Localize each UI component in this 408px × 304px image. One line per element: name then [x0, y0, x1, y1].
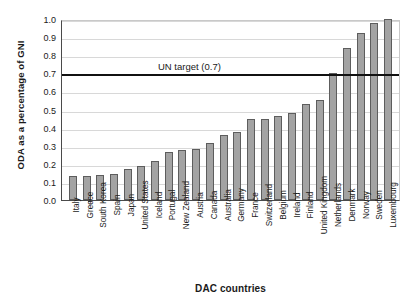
y-axis-tick-labels: 0.00.10.20.30.40.50.60.70.80.91.0: [30, 14, 56, 206]
bar-slot: [244, 21, 258, 200]
bar: [302, 104, 310, 200]
x-tick-slot: Luxembourg: [382, 203, 396, 279]
y-axis-tick-label: 0.7: [30, 69, 56, 79]
x-axis-tick-label: Luxembourg: [389, 182, 398, 228]
y-axis-tick-label: 0.8: [30, 51, 56, 61]
bar-slot: [326, 21, 340, 200]
bar-slot: [354, 21, 368, 200]
y-axis-tick-label: 0.9: [30, 33, 56, 43]
bar: [370, 23, 378, 200]
bar-slot: [285, 21, 299, 200]
y-axis-tick-label: 0.5: [30, 106, 56, 116]
bar-slot: [299, 21, 313, 200]
x-tick-slot: Netherlands: [327, 203, 341, 279]
y-axis-tick-label: 0.3: [30, 142, 56, 152]
bar-slot: [148, 21, 162, 200]
x-tick-slot: Canada: [203, 203, 217, 279]
bar-slot: [203, 21, 217, 200]
y-axis-tick-label: 0.2: [30, 160, 56, 170]
x-tick-slot: South Korea: [93, 203, 107, 279]
x-tick-slot: Portugal: [162, 203, 176, 279]
x-tick-slot: Australia: [217, 203, 231, 279]
y-axis-tick-label: 0.0: [30, 196, 56, 206]
bar-slot: [272, 21, 286, 200]
x-tick-slot: Italy: [65, 203, 79, 279]
x-tick-slot: Germany: [231, 203, 245, 279]
bar-slot: [189, 21, 203, 200]
x-tick-slot: Iceland: [148, 203, 162, 279]
x-tick-slot: Belgium: [272, 203, 286, 279]
bar-slot: [135, 21, 149, 200]
un-target-reference-line: [62, 74, 399, 76]
x-tick-slot: Norway: [355, 203, 369, 279]
plot-area: UN target (0.7): [61, 20, 400, 201]
x-tick-slot: Ireland: [286, 203, 300, 279]
bar-slot: [121, 21, 135, 200]
x-tick-slot: United States: [134, 203, 148, 279]
x-tick-slot: Greece: [79, 203, 93, 279]
y-axis-tick-label: 0.6: [30, 87, 56, 97]
x-tick-slot: Spain: [106, 203, 120, 279]
x-tick-slot: France: [244, 203, 258, 279]
bar-slot: [66, 21, 80, 200]
x-tick-slot: Japan: [120, 203, 134, 279]
bar: [343, 48, 351, 200]
bar-slot: [258, 21, 272, 200]
oda-percentage-of-gni-bar-chart: ODA as a percentage of GNI 0.00.10.20.30…: [0, 0, 408, 304]
bar-slot: [107, 21, 121, 200]
bar-slot: [230, 21, 244, 200]
bar: [384, 19, 392, 200]
bar: [247, 119, 255, 200]
bar-slot: [80, 21, 94, 200]
y-axis-tick-label: 1.0: [30, 15, 56, 25]
y-axis-title: ODA as a percentage of GNI: [14, 5, 28, 205]
bar-slot: [313, 21, 327, 200]
x-tick-slot: Denmark: [341, 203, 355, 279]
bar: [357, 33, 365, 200]
bar: [288, 113, 296, 200]
x-tick-slot: Sweden: [369, 203, 383, 279]
bar-slot: [340, 21, 354, 200]
bar-slot: [381, 21, 395, 200]
bar: [274, 116, 282, 200]
x-tick-slot: Switzerland: [258, 203, 272, 279]
bar-slot: [93, 21, 107, 200]
x-tick-slot: Finland: [300, 203, 314, 279]
bar: [329, 73, 337, 200]
un-target-label: UN target (0.7): [158, 61, 221, 72]
bar-slot: [162, 21, 176, 200]
x-tick-slot: New Zealand: [175, 203, 189, 279]
bar-slot: [176, 21, 190, 200]
y-axis-tick-label: 0.1: [30, 178, 56, 188]
x-axis-tick-labels: ItalyGreeceSouth KoreaSpainJapanUnited S…: [61, 203, 400, 279]
bar: [69, 176, 77, 200]
x-tick-slot: Austria: [189, 203, 203, 279]
x-tick-slot: United Kingdom: [313, 203, 327, 279]
bar-slot: [217, 21, 231, 200]
bars-layer: [62, 21, 399, 200]
bar-slot: [367, 21, 381, 200]
y-axis-tick-label: 0.4: [30, 124, 56, 134]
x-axis-title: DAC countries: [61, 283, 400, 294]
